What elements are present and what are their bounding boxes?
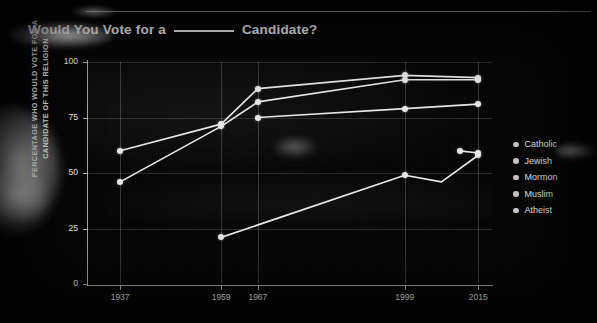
series-line-mormon xyxy=(258,104,478,117)
legend-item-jewish[interactable]: Jewish xyxy=(513,153,558,170)
x-tick-mark xyxy=(258,285,259,290)
data-point-jewish xyxy=(218,123,224,129)
x-tick-label: 1959 xyxy=(212,292,231,302)
y-tick-label: 75 xyxy=(54,112,78,122)
data-point-mormon xyxy=(255,115,261,121)
legend-swatch-icon xyxy=(513,142,519,148)
data-point-catholic xyxy=(117,148,123,154)
chart-title-suffix: Candidate? xyxy=(242,22,318,37)
legend-label: Mormon xyxy=(525,172,558,182)
lens-glare-top xyxy=(70,6,118,17)
plot-area xyxy=(88,62,492,284)
x-tick-mark xyxy=(478,285,479,290)
x-tick-label: 1999 xyxy=(395,292,414,302)
legend-item-atheist[interactable]: Atheist xyxy=(513,202,558,219)
legend-item-muslim[interactable]: Muslim xyxy=(513,186,558,203)
legend-swatch-icon xyxy=(513,175,519,181)
y-axis-title: PERCENTAGE WHO WOULD VOTE FOR A CANDIDAT… xyxy=(30,0,51,199)
x-tick-mark xyxy=(120,285,121,290)
x-tick-label: 1937 xyxy=(111,292,130,302)
data-point-jewish xyxy=(255,99,261,105)
y-tick-label: 25 xyxy=(54,223,78,233)
x-tick-label: 1967 xyxy=(248,292,267,302)
data-point-atheist xyxy=(218,234,224,240)
y-tick-label: 100 xyxy=(54,56,78,66)
legend-label: Atheist xyxy=(525,205,553,215)
header-rule xyxy=(86,11,591,12)
lens-glare-right xyxy=(556,143,596,159)
legend-label: Catholic xyxy=(525,139,558,149)
chart-screenshot: Would You Vote for a Candidate? PERCENTA… xyxy=(0,0,597,323)
legend-item-catholic[interactable]: Catholic xyxy=(513,136,558,153)
data-point-atheist xyxy=(402,172,408,178)
legend-label: Jewish xyxy=(525,156,553,166)
x-tick-label: 2015 xyxy=(469,292,488,302)
legend-swatch-icon xyxy=(513,191,519,197)
legend-swatch-icon xyxy=(513,158,519,164)
x-axis-line xyxy=(87,285,493,286)
data-point-muslim xyxy=(457,148,463,154)
data-point-atheist xyxy=(475,152,481,158)
legend-label: Muslim xyxy=(525,189,554,199)
title-blank-underline xyxy=(174,19,234,32)
y-tick-label: 50 xyxy=(54,167,78,177)
y-tick-label: 0 xyxy=(54,278,78,288)
series-line-catholic xyxy=(120,75,478,150)
data-point-catholic xyxy=(255,86,261,92)
legend-item-mormon[interactable]: Mormon xyxy=(513,169,558,186)
data-point-mormon xyxy=(402,106,408,112)
legend-swatch-icon xyxy=(513,208,519,214)
data-point-jewish xyxy=(402,77,408,83)
data-point-mormon xyxy=(475,101,481,107)
legend: CatholicJewishMormonMuslimAtheist xyxy=(513,136,558,219)
series-lines xyxy=(88,62,492,284)
data-point-jewish xyxy=(475,77,481,83)
x-tick-mark xyxy=(221,285,222,290)
y-tick-mark xyxy=(83,284,88,285)
series-line-jewish xyxy=(120,80,478,182)
series-line-atheist xyxy=(221,155,478,237)
data-point-jewish xyxy=(117,179,123,185)
x-tick-mark xyxy=(405,285,406,290)
chart-title: Would You Vote for a Candidate? xyxy=(28,19,317,37)
